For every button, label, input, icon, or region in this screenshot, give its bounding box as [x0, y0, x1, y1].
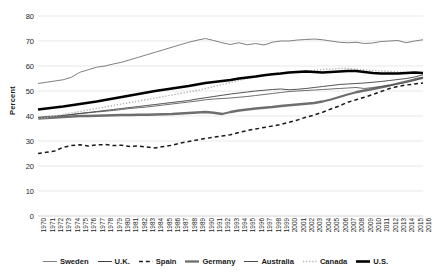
x-axis-tick-1972: 1972 [57, 218, 64, 232]
x-axis-tick-1989: 1989 [199, 218, 206, 232]
x-axis-tick-2010: 2010 [375, 218, 382, 232]
legend-item-germany[interactable]: Germany [185, 258, 235, 266]
x-axis-tick-1991: 1991 [216, 218, 223, 232]
x-axis-tick-1998: 1998 [275, 218, 282, 232]
x-axis-tick-1971: 1971 [49, 218, 56, 232]
x-axis-tick-1990: 1990 [208, 218, 215, 232]
x-axis-tick-2005: 2005 [333, 218, 340, 232]
legend-label-australia: Australia [261, 258, 294, 266]
x-axis-tick-1982: 1982 [141, 218, 148, 232]
x-axis-tick-1983: 1983 [149, 218, 156, 232]
y-axis-tick-labels: 01020304050607080 [0, 16, 34, 216]
legend-swatch-sweden [43, 258, 57, 265]
x-axis-tick-2016: 2016 [425, 218, 432, 232]
legend-swatch-u-k [98, 258, 112, 265]
legend-label-germany: Germany [202, 258, 235, 266]
y-axis-tick-70: 70 [4, 37, 34, 46]
x-axis-tick-1977: 1977 [99, 218, 106, 232]
x-axis-tick-labels: 1970197119721973197419751976197719781979… [38, 218, 423, 254]
x-axis-tick-1970: 1970 [40, 218, 47, 232]
x-axis-tick-2000: 2000 [291, 218, 298, 232]
x-axis-tick-2014: 2014 [408, 218, 415, 232]
x-axis-tick-1996: 1996 [258, 218, 265, 232]
x-axis-tick-1973: 1973 [65, 218, 72, 232]
legend-swatch-u-s [356, 258, 370, 265]
legend-swatch-australia [244, 258, 258, 265]
series-line-sweden [38, 39, 423, 84]
legend-label-canada: Canada [320, 258, 347, 266]
x-axis-tick-1978: 1978 [107, 218, 114, 232]
x-axis-tick-2009: 2009 [367, 218, 374, 232]
legend-item-canada[interactable]: Canada [303, 258, 347, 266]
x-axis-tick-1992: 1992 [224, 218, 231, 232]
legend-swatch-canada [303, 258, 317, 265]
x-axis-tick-2013: 2013 [400, 218, 407, 232]
x-axis-tick-1987: 1987 [182, 218, 189, 232]
legend-item-u-k[interactable]: U.K. [98, 258, 130, 266]
x-axis-tick-1985: 1985 [166, 218, 173, 232]
x-axis-tick-1976: 1976 [90, 218, 97, 232]
legend-label-u-k: U.K. [115, 258, 130, 266]
legend-label-u-s: U.S. [373, 258, 388, 266]
legend-item-u-s[interactable]: U.S. [356, 258, 388, 266]
x-axis-tick-2015: 2015 [417, 218, 424, 232]
x-axis-tick-1979: 1979 [116, 218, 123, 232]
y-axis-tick-30: 30 [4, 137, 34, 146]
x-axis-tick-2003: 2003 [316, 218, 323, 232]
y-axis-tick-80: 80 [4, 12, 34, 21]
x-axis-tick-1984: 1984 [157, 218, 164, 232]
x-axis-tick-1994: 1994 [241, 218, 248, 232]
x-axis-tick-1986: 1986 [174, 218, 181, 232]
x-axis-tick-1981: 1981 [132, 218, 139, 232]
x-axis-tick-1999: 1999 [283, 218, 290, 232]
x-axis-tick-1995: 1995 [249, 218, 256, 232]
legend-swatch-germany [185, 258, 199, 265]
x-axis-tick-2002: 2002 [308, 218, 315, 232]
x-axis-tick-2004: 2004 [325, 218, 332, 232]
legend-item-sweden[interactable]: Sweden [43, 258, 89, 266]
legend-item-spain[interactable]: Spain [139, 258, 177, 266]
y-axis-tick-50: 50 [4, 87, 34, 96]
legend-label-sweden: Sweden [60, 258, 89, 266]
legend-swatch-spain [139, 258, 153, 265]
x-axis-tick-1980: 1980 [124, 218, 131, 232]
x-axis-tick-1997: 1997 [266, 218, 273, 232]
plot-svg [38, 16, 423, 216]
x-axis-tick-1975: 1975 [82, 218, 89, 232]
y-axis-tick-40: 40 [4, 112, 34, 121]
x-axis-tick-2011: 2011 [383, 218, 390, 232]
x-axis-tick-1988: 1988 [191, 218, 198, 232]
chart-legend: SwedenU.K.SpainGermanyAustraliaCanadaU.S… [0, 258, 431, 266]
y-axis-tick-0: 0 [4, 212, 34, 221]
plot-area [38, 16, 423, 216]
y-axis-tick-10: 10 [4, 187, 34, 196]
x-axis-tick-2001: 2001 [300, 218, 307, 232]
legend-label-spain: Spain [156, 258, 177, 266]
x-axis-tick-2012: 2012 [392, 218, 399, 232]
x-axis-tick-1993: 1993 [233, 218, 240, 232]
y-axis-tick-20: 20 [4, 162, 34, 171]
x-axis-tick-2008: 2008 [358, 218, 365, 232]
legend-item-australia[interactable]: Australia [244, 258, 294, 266]
y-axis-tick-60: 60 [4, 62, 34, 71]
x-axis-tick-2007: 2007 [350, 218, 357, 232]
x-axis-tick-1974: 1974 [74, 218, 81, 232]
x-axis-tick-2006: 2006 [342, 218, 349, 232]
